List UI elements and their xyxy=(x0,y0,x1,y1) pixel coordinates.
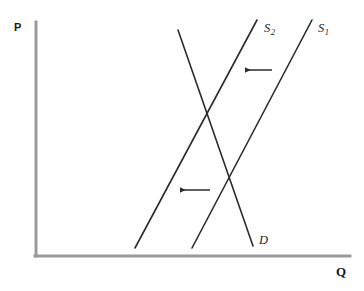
supply-curve-s2-label-subscript: 2 xyxy=(271,27,275,37)
x-axis-label: Q xyxy=(336,265,346,278)
figure-canvas: P Q S2 S1 D xyxy=(0,0,364,291)
supply-curve-s1-label-text: S xyxy=(318,21,324,35)
supply-curve-s1-label: S1 xyxy=(318,22,329,35)
supply-demand-diagram xyxy=(0,0,364,291)
y-axis-label: P xyxy=(14,22,22,33)
demand-curve-d xyxy=(178,30,253,246)
supply-curve-s1-label-subscript: 1 xyxy=(325,27,329,37)
demand-curve-label-text: D xyxy=(259,233,268,247)
demand-curve-label: D xyxy=(259,234,268,247)
supply-curve-s2 xyxy=(135,20,257,248)
supply-curve-s1 xyxy=(192,20,312,248)
supply-curve-s2-label: S2 xyxy=(264,22,275,35)
supply-curve-s2-label-text: S xyxy=(264,21,270,35)
